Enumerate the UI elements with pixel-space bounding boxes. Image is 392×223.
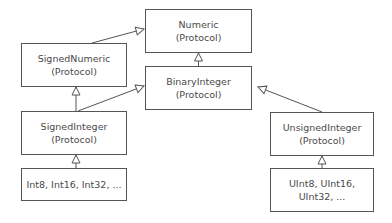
- node-title: SignedInteger: [41, 120, 108, 133]
- node-label: Int8, Int16, Int32, ...: [26, 178, 121, 191]
- arrow-unsignedinteger-to-binaryinteger: [258, 87, 322, 112]
- node-stereotype: (Protocol): [176, 31, 222, 44]
- arrow-signedinteger-to-binaryinteger: [78, 86, 144, 111]
- node-stereotype: (Protocol): [299, 134, 345, 147]
- arrow-signednumeric-to-numeric: [92, 29, 144, 43]
- node-title: Numeric: [179, 18, 219, 31]
- node-label-line2: UInt32, ...: [299, 190, 346, 203]
- node-label-line1: UInt8, UInt16,: [289, 177, 355, 190]
- node-signed-numeric: SignedNumeric (Protocol): [21, 43, 127, 87]
- node-int-types: Int8, Int16, Int32, ...: [21, 168, 127, 201]
- node-title: BinaryInteger: [166, 75, 231, 88]
- node-unsigned-integer: UnsignedInteger (Protocol): [270, 112, 374, 156]
- node-numeric: Numeric (Protocol): [145, 9, 252, 53]
- node-title: UnsignedInteger: [283, 121, 362, 134]
- node-stereotype: (Protocol): [176, 88, 222, 101]
- node-stereotype: (Protocol): [51, 65, 97, 78]
- node-uint-types: UInt8, UInt16, UInt32, ...: [270, 168, 374, 212]
- node-binary-integer: BinaryInteger (Protocol): [145, 66, 252, 110]
- node-signed-integer: SignedInteger (Protocol): [21, 111, 127, 155]
- node-title: SignedNumeric: [38, 52, 111, 65]
- node-stereotype: (Protocol): [51, 133, 97, 146]
